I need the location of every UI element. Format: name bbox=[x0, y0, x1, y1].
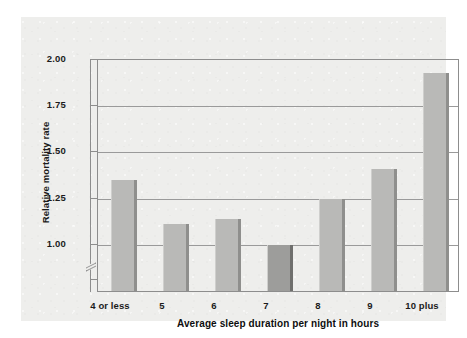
x-axis-title: Average sleep duration per night in hour… bbox=[97, 318, 459, 329]
bar-shade bbox=[446, 73, 449, 291]
y-axis-label-1.50: 1.50 bbox=[26, 145, 66, 156]
bar-shade bbox=[238, 219, 241, 291]
y-axis-tick bbox=[90, 244, 97, 245]
bar-5[interactable] bbox=[163, 224, 189, 291]
bar-8[interactable] bbox=[319, 199, 345, 291]
y-axis-labels: 2.00 1.75 1.50 1.25 1.00 bbox=[22, 0, 66, 338]
bar-face bbox=[163, 224, 186, 291]
bar-face bbox=[111, 180, 134, 291]
y-axis-tick bbox=[90, 151, 97, 152]
x-axis-label-6: 10 plus bbox=[382, 300, 462, 311]
bar-face bbox=[319, 199, 342, 291]
y-axis-label-1.75: 1.75 bbox=[26, 99, 66, 110]
bar-face bbox=[267, 245, 290, 291]
axis-break-icon bbox=[85, 259, 97, 272]
y-axis-tick bbox=[90, 105, 97, 106]
bar-face bbox=[371, 169, 394, 291]
bar-7[interactable] bbox=[267, 245, 293, 291]
y-axis-label-2.00: 2.00 bbox=[26, 53, 66, 64]
bar-6[interactable] bbox=[215, 219, 241, 291]
y-axis-label-1.00: 1.00 bbox=[26, 238, 66, 249]
y-axis-tick bbox=[90, 198, 97, 199]
gridline bbox=[98, 199, 458, 200]
bar-face bbox=[423, 73, 446, 291]
y-axis-tick bbox=[90, 279, 97, 280]
bar-shade bbox=[186, 224, 189, 291]
gridline bbox=[98, 106, 458, 107]
gridline bbox=[98, 152, 458, 153]
bar-shade bbox=[394, 169, 397, 291]
bar-9[interactable] bbox=[371, 169, 397, 291]
bar-10-plus[interactable] bbox=[423, 73, 449, 291]
bar-4-or-less[interactable] bbox=[111, 180, 137, 291]
bar-shade bbox=[290, 245, 293, 291]
plot-area bbox=[97, 59, 459, 292]
bar-face bbox=[215, 219, 238, 291]
bar-shade bbox=[134, 180, 137, 291]
figure: Relative mortality rate bbox=[0, 0, 467, 338]
bar-shade bbox=[342, 199, 345, 291]
y-axis-line bbox=[90, 59, 91, 292]
y-axis-label-1.25: 1.25 bbox=[26, 192, 66, 203]
y-axis-tick bbox=[90, 59, 97, 60]
chart-panel: Relative mortality rate bbox=[21, 17, 446, 321]
